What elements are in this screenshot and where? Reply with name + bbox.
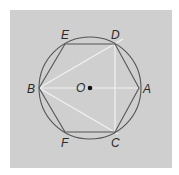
label-B: B bbox=[27, 82, 35, 96]
hexagon-diagram: O A B E D F C bbox=[0, 0, 179, 175]
label-D: D bbox=[111, 28, 120, 42]
label-O: O bbox=[76, 81, 85, 95]
center-point bbox=[88, 86, 93, 91]
label-C: C bbox=[111, 136, 120, 150]
label-E: E bbox=[61, 28, 70, 42]
label-A: A bbox=[142, 82, 151, 96]
label-F: F bbox=[61, 136, 69, 150]
